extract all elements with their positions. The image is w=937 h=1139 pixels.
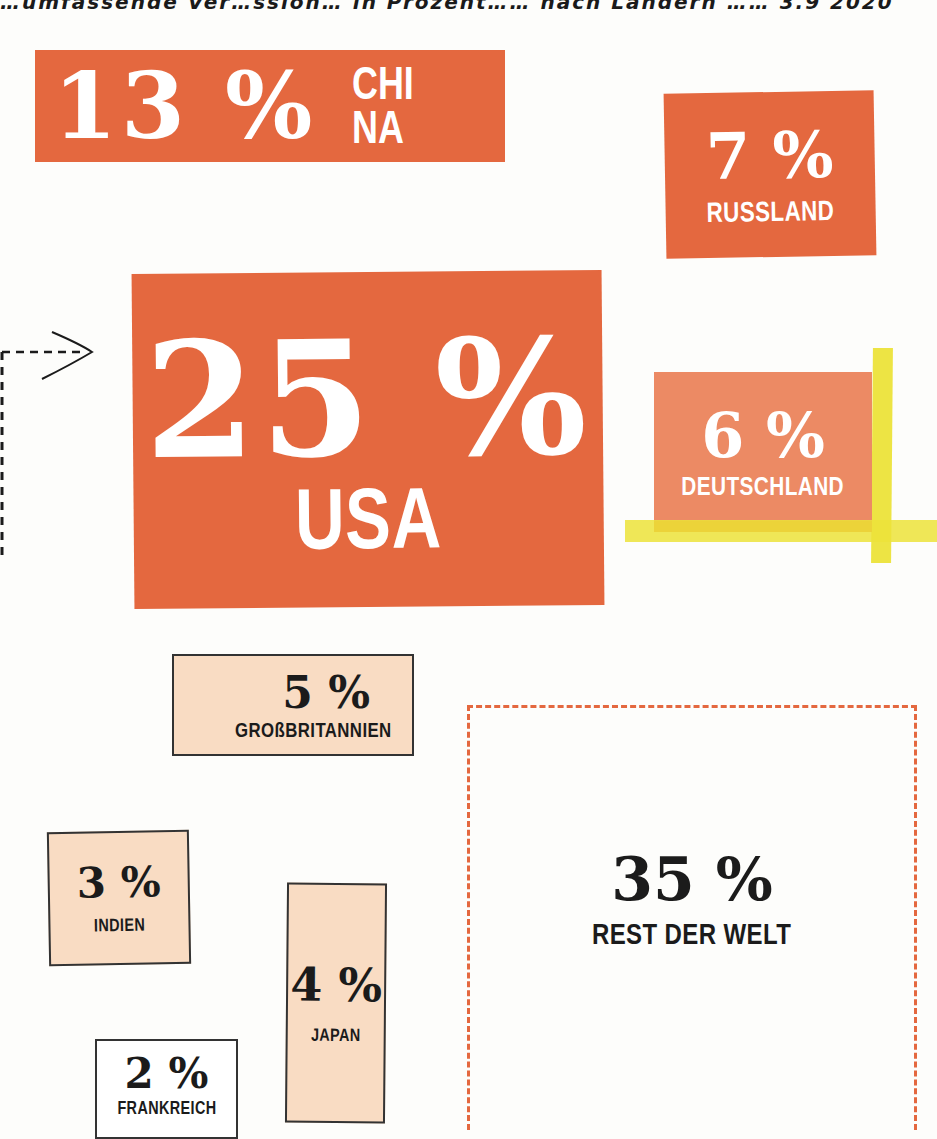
box-rest-of-world: 35 % REST DER WELT (467, 705, 917, 1130)
japan-percent: 4 % (290, 962, 382, 1009)
tag-france: 2 % FRANKREICH (95, 1039, 238, 1139)
tag-india: 3 % INDIEN (47, 830, 191, 966)
uk-percent: 5 % (282, 671, 370, 715)
dashed-arrow-icon (0, 330, 120, 560)
france-label: FRANKREICH (117, 1099, 216, 1117)
russia-label: RUSSLAND (707, 196, 835, 226)
tag-russia: 7 % RUSSLAND (664, 90, 877, 259)
usa-percent: 25 % (144, 317, 592, 481)
china-percent: 13 % (53, 60, 316, 152)
usa-label: USA (295, 474, 442, 561)
tag-germany: 6 % DEUTSCHLAND (654, 372, 872, 532)
tag-uk: 5 % GROßBRITANNIEN (172, 654, 414, 756)
japan-label: JAPAN (311, 1026, 361, 1044)
tag-japan: 4 % JAPAN (285, 883, 387, 1124)
china-label: CHI NA (352, 62, 414, 149)
rest-percent: 35 % (611, 849, 772, 909)
uk-label: GROßBRITANNIEN (236, 719, 392, 740)
india-percent: 3 % (76, 861, 160, 904)
india-label: INDIEN (94, 916, 146, 935)
tag-china: 13 % CHI NA (35, 50, 505, 162)
tag-usa: 25 % USA (132, 270, 605, 609)
rest-label: REST DER WELT (592, 919, 791, 949)
cut-off-header-text: …umfassende Ver…ssion… in Prozent…… nach… (0, 0, 937, 12)
highlighter-horizontal (625, 520, 937, 542)
france-percent: 2 % (125, 1053, 209, 1095)
germany-label: DEUTSCHLAND (682, 473, 845, 499)
germany-percent: 6 % (701, 405, 825, 467)
russia-percent: 7 % (705, 122, 834, 188)
